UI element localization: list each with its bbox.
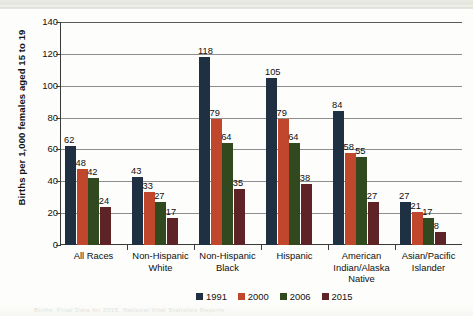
bar[interactable]: 79 (278, 119, 289, 245)
bar-group: 43332717 (132, 22, 199, 245)
y-axis-tick-mark-40 (56, 181, 61, 182)
bar[interactable]: 42 (88, 178, 99, 245)
x-axis-category-label: AmericanIndian/AlaskaNative (325, 250, 398, 285)
bar-value-label: 79 (277, 108, 287, 118)
bar[interactable]: 64 (222, 143, 233, 245)
scan-artifact-fade-bottom (0, 304, 473, 316)
y-axis-tick-label-0: 0 (24, 239, 58, 250)
bar-value-label: 33 (143, 181, 153, 191)
y-axis-tick-mark-140 (56, 22, 61, 23)
x-axis-category-line: Black (191, 262, 264, 274)
bar[interactable]: 27 (368, 202, 379, 245)
x-axis-category-line: All Races (57, 250, 130, 262)
y-axis-tick-label-120: 120 (24, 48, 58, 59)
x-axis-category-line: American (325, 250, 398, 262)
bar-value-label: 55 (355, 146, 365, 156)
x-axis-category-label: Non-HispanicWhite (124, 250, 197, 273)
x-axis-category-label: Non-HispanicBlack (191, 250, 264, 273)
bar-group: 118796435 (199, 22, 266, 245)
legend-item[interactable]: 2006 (280, 291, 311, 302)
bar[interactable]: 84 (333, 111, 344, 245)
legend-item[interactable]: 2000 (238, 291, 269, 302)
bar[interactable]: 17 (423, 218, 434, 245)
x-axis-category-line: Native (325, 273, 398, 285)
bar[interactable]: 105 (266, 78, 277, 245)
bar-value-label: 58 (344, 142, 354, 152)
bar-value-label: 27 (154, 191, 164, 201)
bar-value-label: 64 (221, 132, 231, 142)
bar[interactable]: 38 (301, 184, 312, 245)
legend-swatch (280, 293, 287, 300)
bar-group: 2721178 (400, 22, 467, 245)
y-axis-tick-label-60: 60 (24, 143, 58, 154)
legend-label: 2006 (290, 291, 311, 302)
bar-value-label: 24 (99, 196, 109, 206)
bar[interactable]: 43 (132, 177, 143, 245)
y-axis-tick-label-20: 20 (24, 207, 58, 218)
legend-label: 2000 (248, 291, 269, 302)
bar[interactable]: 48 (77, 169, 88, 245)
bar[interactable]: 8 (435, 232, 446, 245)
bar-group: 62484224 (65, 22, 132, 245)
bar-value-label: 35 (233, 178, 243, 188)
bar-value-label: 43 (131, 166, 141, 176)
bar-value-label: 8 (434, 221, 439, 231)
x-axis-category-label: All Races (57, 250, 130, 262)
bar-value-label: 38 (300, 173, 310, 183)
x-axis-category-label: Hispanic (258, 250, 331, 262)
bar[interactable]: 35 (234, 189, 245, 245)
bar-value-label: 27 (399, 191, 409, 201)
chart-legend: 1991200020062015 (196, 291, 352, 302)
bar-value-label: 27 (367, 191, 377, 201)
bar-value-label: 105 (265, 67, 281, 77)
legend-swatch (238, 293, 245, 300)
scan-artifact-line-top (0, 7, 473, 9)
y-axis-tick-label-100: 100 (24, 80, 58, 91)
bar[interactable]: 27 (155, 202, 166, 245)
y-axis-line (60, 22, 61, 245)
bar[interactable]: 27 (400, 202, 411, 245)
bar[interactable]: 62 (65, 146, 76, 245)
legend-swatch (322, 293, 329, 300)
bar[interactable]: 24 (100, 207, 111, 245)
bar[interactable]: 17 (167, 218, 178, 245)
bar-value-label: 48 (76, 158, 86, 168)
bar[interactable]: 79 (211, 119, 222, 245)
bar[interactable]: 64 (289, 143, 300, 245)
bar-value-label: 118 (198, 46, 213, 56)
legend-item[interactable]: 1991 (196, 291, 227, 302)
plot-area: 0204060801001201406248422443332717118796… (60, 22, 462, 245)
y-axis-tick-mark-0 (56, 245, 61, 246)
x-axis-category-line: Hispanic (258, 250, 331, 262)
bar[interactable]: 118 (199, 57, 210, 245)
x-axis-category-line: White (124, 262, 197, 274)
bar[interactable]: 33 (144, 192, 155, 245)
bar-value-label: 17 (166, 207, 176, 217)
y-axis-tick-mark-60 (56, 149, 61, 150)
x-axis-category-label: Asian/PacificIslander (392, 250, 465, 273)
bar[interactable]: 55 (356, 157, 367, 245)
bar-value-label: 62 (64, 135, 74, 145)
bar-value-label: 17 (422, 207, 432, 217)
x-axis-category-line: Non-Hispanic (191, 250, 264, 262)
x-axis-category-line: Non-Hispanic (124, 250, 197, 262)
bar[interactable]: 58 (345, 153, 356, 245)
legend-label: 1991 (206, 291, 227, 302)
y-axis-tick-mark-20 (56, 213, 61, 214)
y-axis-tick-mark-120 (56, 54, 61, 55)
bar-value-label: 79 (210, 108, 220, 118)
y-axis-tick-mark-100 (56, 86, 61, 87)
bar-value-label: 42 (87, 167, 97, 177)
bar-value-label: 21 (411, 201, 421, 211)
bar-value-label: 84 (332, 100, 342, 110)
bar-group: 84585527 (333, 22, 400, 245)
bar-group: 105796438 (266, 22, 333, 245)
y-axis-tick-mark-80 (56, 118, 61, 119)
x-axis-category-line: Islander (392, 262, 465, 274)
bar[interactable]: 21 (412, 212, 423, 245)
y-axis-tick-label-40: 40 (24, 175, 58, 186)
legend-swatch (196, 293, 203, 300)
x-axis-category-line: Asian/Pacific (392, 250, 465, 262)
legend-item[interactable]: 2015 (322, 291, 353, 302)
x-axis-category-line: Indian/Alaska (325, 262, 398, 274)
